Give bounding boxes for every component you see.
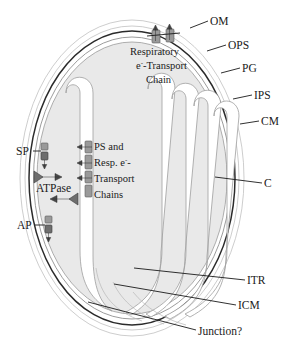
leader-ops [207,45,226,51]
label-ops: OPS [228,39,249,51]
respiratory-chain-line-2: e--Transport [136,59,187,71]
cyanobacterium-cell-diagram: OM OPS PG IPS CM C ITR ICM Junction? SP … [0,0,304,355]
label-ips: IPS [254,89,271,101]
thylakoid-chains-line-4: Chains [94,189,123,200]
label-itr: ITR [247,274,266,286]
label-icm: ICM [238,299,260,311]
label-cm: CM [261,115,279,127]
label-atpase: ATPase [36,182,71,194]
label-sp: SP [16,145,29,157]
respiratory-chain-line-3: Chain [146,74,172,85]
thylakoid-chains-line-3: Transport [94,173,135,184]
label-junction: Junction? [198,325,242,337]
leader-cm [240,121,259,124]
label-pg: PG [242,62,257,74]
respiratory-chain-line-1: Respiratory [130,46,180,57]
label-ap: AP [17,219,32,231]
leader-om [190,21,208,28]
label-c: C [264,177,272,189]
leader-pg [221,68,240,73]
respiratory-chain-complex [147,24,180,43]
leader-ips [233,95,252,99]
label-om: OM [210,15,229,27]
thylakoid-chains-line-1: PS and [94,141,124,152]
